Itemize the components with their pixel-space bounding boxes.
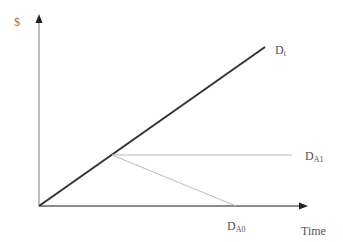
label-da0-main: D — [227, 219, 236, 233]
y-axis-arrow-icon — [36, 14, 43, 23]
label-da0: DA0 — [227, 220, 245, 234]
line-dt — [39, 47, 265, 206]
label-dt-main: D — [275, 43, 284, 57]
label-da0-sub: A0 — [236, 225, 246, 234]
label-da1-main: D — [305, 149, 314, 163]
y-axis-label: $ — [14, 16, 20, 28]
label-da1: DA1 — [305, 150, 323, 164]
x-axis-arrow-icon — [299, 203, 308, 210]
line-da0 — [112, 155, 236, 206]
label-dt: Dt — [275, 44, 286, 58]
label-dt-sub: t — [284, 49, 286, 58]
x-axis-label: Time — [301, 225, 326, 237]
label-da1-sub: A1 — [314, 155, 324, 164]
diagram-canvas — [0, 0, 343, 242]
